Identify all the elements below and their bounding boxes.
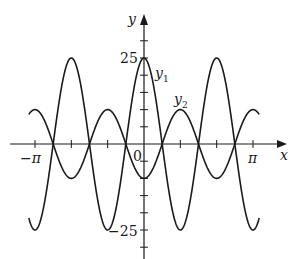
y-tick-label-25: 25 <box>120 50 138 66</box>
origin-label: 0 <box>133 148 142 164</box>
series-label-y1-sub: 1 <box>163 74 169 84</box>
y-tick-label-neg25: −25 <box>108 223 138 239</box>
chart-canvas: y x 25 −25 −π π 0 y 1 y 2 <box>0 0 295 259</box>
y-axis-label: y <box>127 11 137 27</box>
x-tick-label-neg-pi: −π <box>20 150 42 166</box>
series-label-y2-sub: 2 <box>182 100 188 110</box>
x-axis-label: x <box>280 147 288 163</box>
x-tick-label-pi: π <box>247 150 258 166</box>
y-axis-arrow-icon <box>140 14 148 25</box>
